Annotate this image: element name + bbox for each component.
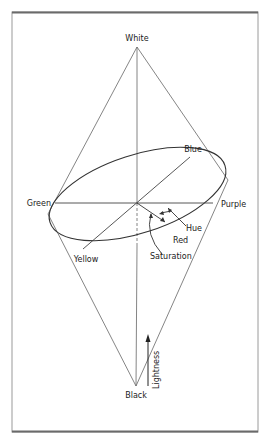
label-hue: Hue [186, 224, 202, 233]
label-purple: Purple [221, 200, 246, 209]
label-blue: Blue [184, 145, 202, 154]
label-saturation: Saturation [150, 252, 192, 261]
label-black: Black [125, 391, 147, 400]
label-yellow: Yellow [73, 255, 99, 264]
label-white: White [125, 34, 148, 43]
label-lightness: Lightness [152, 351, 161, 389]
label-red: Red [173, 236, 188, 245]
color-solid-diagram: White Black Blue Green Purple Yellow Hue… [0, 0, 265, 445]
label-green: Green [27, 199, 51, 208]
figure-frame [12, 12, 258, 432]
